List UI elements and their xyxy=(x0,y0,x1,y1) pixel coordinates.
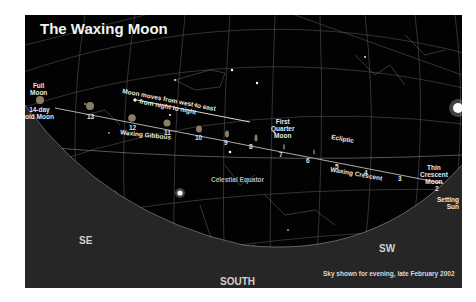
celestial-equator-label: Celestial Equator xyxy=(211,177,264,184)
day-3-label: 3 xyxy=(398,175,402,182)
moon-full-icon xyxy=(36,96,44,104)
thin-crescent-label: Thin Crescent Moon xyxy=(420,165,448,185)
setting-sun-line2: Sun xyxy=(437,204,459,211)
direction-se: SE xyxy=(79,236,92,247)
moon-6-icon xyxy=(313,149,315,155)
moon-9-icon xyxy=(225,131,229,138)
day-5-label: 5 xyxy=(335,163,339,170)
first-quarter-line3: Moon xyxy=(271,133,294,140)
day-6-label: 6 xyxy=(306,157,310,164)
day-12-label: 12 xyxy=(129,124,136,131)
first-quarter-label: First Quarter Moon xyxy=(271,119,294,139)
moon-8-icon xyxy=(255,134,258,141)
sky-chart-figure: The Waxing Moon Full Moon 14-day old Moo… xyxy=(25,15,462,288)
caption: Sky shown for evening, late February 200… xyxy=(323,271,455,278)
sky-chart-svg xyxy=(25,15,462,288)
moon-12-icon xyxy=(128,114,136,122)
setting-sun-label: Setting Sun xyxy=(437,197,459,211)
day-8-label: 8 xyxy=(249,143,253,150)
day-11-label: 11 xyxy=(164,129,171,136)
moon-10-icon xyxy=(196,125,202,132)
full-moon-label-line2: Moon xyxy=(30,90,47,97)
full-moon-label: Full Moon xyxy=(30,83,47,97)
day-10-label: 10 xyxy=(195,134,202,141)
day-9-label: 9 xyxy=(224,139,228,146)
moon-13-icon xyxy=(86,102,94,110)
direction-south: SOUTH xyxy=(220,277,255,288)
day-4-label: 4 xyxy=(364,169,368,176)
moon-11-icon xyxy=(164,120,171,127)
day-7-label: 7 xyxy=(279,151,283,158)
direction-sw: SW xyxy=(379,244,395,255)
moon-7-icon xyxy=(283,144,285,150)
thin-crescent-line3: Moon xyxy=(420,179,448,186)
day-2-label: 2 xyxy=(435,185,439,192)
old-moon-label-line2: old Moon xyxy=(25,114,54,121)
figure-title: The Waxing Moon xyxy=(40,20,168,37)
day-13-label: 13 xyxy=(87,113,94,120)
horizon-ground xyxy=(25,105,462,288)
celestial-equator-line xyxy=(25,145,462,158)
old-moon-label: 14-day old Moon xyxy=(25,107,54,121)
